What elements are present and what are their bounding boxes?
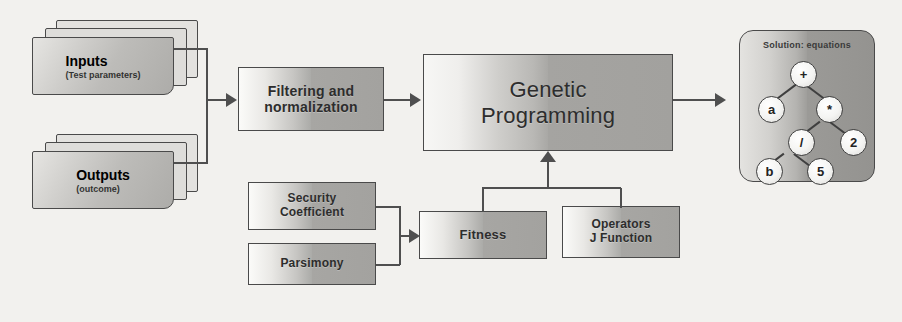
- inputs-stack: Inputs (Test parameters): [32, 20, 200, 98]
- tree-node-b-label: b: [766, 164, 774, 179]
- genetic-programming-label: Genetic Programming: [481, 77, 615, 128]
- tree-node-root-label: +: [800, 67, 808, 82]
- outputs-label: Outputs (outcome): [76, 167, 130, 194]
- security-line2: Coefficient: [280, 205, 344, 219]
- connector-gp-to-solution: [673, 99, 717, 101]
- tree-node-root[interactable]: +: [790, 61, 817, 88]
- tree-node-five[interactable]: 5: [807, 158, 834, 185]
- tree-node-a-label: a: [768, 102, 775, 117]
- operators-label: Operators J Function: [590, 218, 653, 246]
- connector-filtering-to-gp: [384, 99, 412, 101]
- outputs-sheet-front[interactable]: Outputs (outcome): [32, 151, 174, 209]
- inputs-label: Inputs (Test parameters): [66, 53, 141, 80]
- connector-fitness-up: [482, 188, 484, 212]
- genetic-programming-box[interactable]: Genetic Programming: [423, 54, 673, 151]
- parsimony-box[interactable]: Parsimony: [248, 243, 376, 285]
- operators-box[interactable]: Operators J Function: [562, 206, 680, 258]
- tree-node-five-label: 5: [817, 164, 824, 179]
- tree-node-multiply[interactable]: *: [816, 96, 843, 123]
- diagram-canvas: Inputs (Test parameters) Outputs (outcom…: [0, 0, 902, 322]
- connector-merge-to-filtering: [206, 99, 228, 101]
- fitness-label: Fitness: [460, 228, 507, 243]
- connector-merge-vertical: [206, 48, 208, 163]
- connector-operators-up: [620, 188, 622, 208]
- filtering-line2: normalization: [264, 99, 358, 115]
- inputs-sheet-front[interactable]: Inputs (Test parameters): [32, 37, 174, 95]
- fitness-box[interactable]: Fitness: [419, 211, 547, 259]
- gp-line2: Programming: [481, 103, 615, 128]
- filtering-label: Filtering and normalization: [264, 83, 358, 115]
- operators-line1: Operators: [591, 217, 650, 231]
- arrowhead-to-gp-feedback: [540, 151, 556, 162]
- gp-line1: Genetic: [509, 77, 586, 102]
- operators-line2: J Function: [590, 231, 653, 245]
- inputs-title: Inputs: [66, 53, 108, 69]
- outputs-sublabel: (outcome): [76, 184, 130, 194]
- tree-node-a[interactable]: a: [758, 96, 785, 123]
- tree-node-divide-label: /: [800, 135, 804, 150]
- tree-node-two-label: 2: [850, 135, 857, 150]
- filtering-line1: Filtering and: [268, 83, 355, 99]
- security-coefficient-box[interactable]: Security Coefficient: [248, 182, 376, 230]
- tree-node-two[interactable]: 2: [840, 129, 867, 156]
- connector-parsimony-horizontal: [376, 264, 400, 266]
- outputs-title: Outputs: [76, 167, 130, 183]
- solution-panel[interactable]: Solution: equations + a * / 2 b 5: [739, 30, 875, 182]
- connector-security-horizontal: [376, 206, 400, 208]
- connector-bus-to-gp: [547, 162, 549, 188]
- connector-feedback-bus: [482, 187, 621, 189]
- tree-node-multiply-label: *: [827, 102, 832, 117]
- security-coefficient-label: Security Coefficient: [280, 192, 344, 220]
- filtering-box[interactable]: Filtering and normalization: [238, 67, 384, 131]
- arrowhead-to-solution: [715, 93, 726, 107]
- arrowhead-to-gp: [410, 93, 421, 107]
- arrowhead-to-filtering: [226, 93, 237, 107]
- solution-title: Solution: equations: [740, 40, 874, 50]
- inputs-sublabel: (Test parameters): [66, 70, 141, 80]
- connector-inputs-horizontal: [174, 48, 208, 50]
- tree-node-divide[interactable]: /: [788, 129, 815, 156]
- outputs-stack: Outputs (outcome): [32, 134, 200, 212]
- security-line1: Security: [288, 191, 337, 205]
- connector-outputs-horizontal: [174, 162, 208, 164]
- tree-node-b[interactable]: b: [756, 158, 783, 185]
- parsimony-label: Parsimony: [280, 257, 343, 271]
